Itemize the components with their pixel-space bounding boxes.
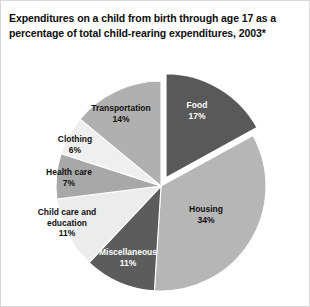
slice-label-healthcare-name: Health care [46,167,92,177]
slice-label-clothing: Clothing 6% [46,134,104,155]
slice-label-childcare-pct: 11% [19,228,115,239]
slice-label-housing-pct: 34% [171,215,241,226]
slice-label-healthcare-pct: 7% [33,178,105,189]
slice-label-food-pct: 17% [167,111,227,122]
slice-label-housing: Housing 34% [171,204,241,225]
slice-label-food-name: Food [187,100,208,110]
slice-label-miscellaneous: Miscellaneous 11% [86,247,170,268]
slice-label-clothing-pct: 6% [46,145,104,156]
chart-page: Expenditures on a child from birth throu… [0,0,310,307]
slice-label-childcare: Child care and education 11% [19,207,115,239]
slice-label-food: Food 17% [167,100,227,121]
slice-label-transportation: Transportation 14% [79,103,163,124]
slice-label-childcare-name-line2: education [19,218,115,229]
chart-title: Expenditures on a child from birth throu… [9,11,295,41]
slice-label-housing-name: Housing [189,204,223,214]
slice-label-miscellaneous-name: Miscellaneous [99,247,157,257]
slice-label-healthcare: Health care 7% [33,167,105,188]
slice-label-transportation-name: Transportation [91,103,151,113]
slice-label-childcare-name-line1: Child care and [38,207,97,217]
slice-label-miscellaneous-pct: 11% [86,258,170,269]
slice-label-transportation-pct: 14% [79,114,163,125]
pie-chart: Food 17% Housing 34% Miscellaneous 11% C… [1,59,309,306]
slice-label-clothing-name: Clothing [58,134,92,144]
